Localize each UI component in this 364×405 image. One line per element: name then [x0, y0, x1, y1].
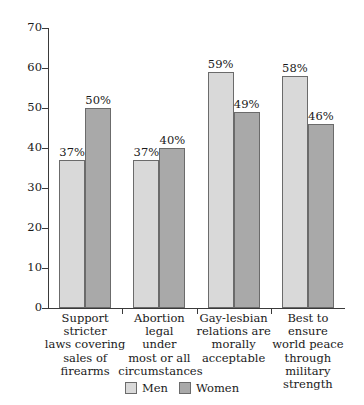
bar-women-2 [159, 148, 185, 308]
y-axis-tick-label: 20 [0, 222, 42, 234]
category-label-3: Gay-lesbianrelations aremorallyacceptabl… [193, 312, 275, 365]
category-label-2: Abortionlegalundermost or allcircumstanc… [118, 312, 200, 378]
y-axis-tick-label: 30 [0, 182, 42, 194]
category-label-line: acceptable [193, 352, 275, 365]
category-label-line: Best to ensure [267, 312, 349, 338]
category-label-line: firearms [44, 365, 126, 378]
bar-value-label: 40% [152, 134, 192, 146]
category-label-1: Support stricterlaws coveringsales offir… [44, 312, 126, 378]
category-label-line: through [267, 352, 349, 365]
legend-label: Women [196, 382, 239, 394]
y-axis-tick-label: 40 [0, 142, 42, 154]
legend-swatch-men [125, 382, 137, 394]
legend-item-women: Women [179, 382, 239, 394]
y-axis-tick-label: 0 [0, 302, 42, 314]
bar-women-1 [85, 108, 111, 308]
category-label-line: sales of [44, 352, 126, 365]
y-axis-tick-label-text: 30 [18, 182, 42, 194]
bar-women-3 [234, 112, 260, 308]
y-axis-tick-label: 60 [0, 62, 42, 74]
bar-women-4 [308, 124, 334, 308]
category-label-line: laws covering [44, 338, 126, 351]
category-label-line: morally [193, 338, 275, 351]
legend-item-men: Men [125, 382, 168, 394]
y-axis-tick-label-text: 10 [18, 262, 42, 274]
category-label-line: under [118, 338, 200, 351]
y-axis-tick-label-text: 70 [18, 22, 42, 34]
y-axis-tick-label-text: 50 [18, 102, 42, 114]
y-axis-tick-label: 50 [0, 102, 42, 114]
y-axis-tick-label: 10 [0, 262, 42, 274]
chart-legend: MenWomen [0, 382, 364, 394]
plot-area: 37%50%37%40%59%49%58%46% [48, 28, 345, 308]
bar-chart: 010203040506070 37%50%37%40%59%49%58%46%… [0, 0, 364, 405]
bar-value-label: 46% [301, 110, 341, 122]
category-label-line: world peace [267, 338, 349, 351]
y-axis-tick-label-text: 0 [18, 302, 42, 314]
bar-value-label: 59% [201, 58, 241, 70]
legend-swatch-women [179, 382, 191, 394]
category-label-line: most or all [118, 352, 200, 365]
category-label-line: circumstances [118, 365, 200, 378]
y-axis-tick-label-text: 20 [18, 222, 42, 234]
bar-men-1 [59, 160, 85, 308]
bar-value-label: 50% [78, 94, 118, 106]
category-label-4: Best to ensureworld peacethroughmilitary… [267, 312, 349, 391]
y-axis-tick-label: 70 [0, 22, 42, 34]
bar-value-label: 58% [275, 62, 315, 74]
bar-value-label: 49% [227, 98, 267, 110]
y-axis-tick-label-text: 40 [18, 142, 42, 154]
category-label-line: Support stricter [44, 312, 126, 338]
y-axis-tick-label-text: 60 [18, 62, 42, 74]
bar-men-2 [133, 160, 159, 308]
legend-label: Men [142, 382, 168, 394]
